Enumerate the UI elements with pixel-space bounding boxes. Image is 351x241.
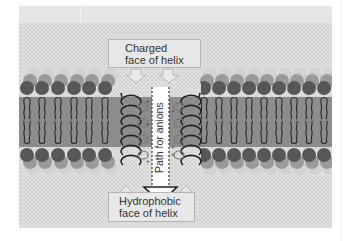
- svg-text:+: +: [146, 158, 150, 164]
- header-divider: [80, 6, 81, 23]
- charged-face-label: Charged face of helix: [108, 39, 201, 68]
- svg-text:+: +: [171, 108, 175, 114]
- right-edge-line: [341, 0, 342, 241]
- hydrophobic-label-line2: face of helix: [119, 207, 194, 219]
- charged-label-line1: Charged: [125, 42, 200, 54]
- charged-label-line2: face of helix: [125, 54, 200, 66]
- hydrophobic-face-label: Hydrophobic face of helix: [108, 192, 195, 222]
- path-for-anions-label: Path for anions: [153, 102, 165, 173]
- svg-text:+: +: [171, 151, 175, 157]
- header-bar: [19, 6, 332, 23]
- membrane-diagram: +++ +++ Charged face of helix Hydrophobi…: [19, 23, 332, 228]
- svg-text:+: +: [171, 144, 175, 150]
- svg-text:+: +: [146, 98, 150, 104]
- svg-text:+: +: [146, 121, 150, 127]
- hydrophobic-label-line1: Hydrophobic: [119, 195, 194, 207]
